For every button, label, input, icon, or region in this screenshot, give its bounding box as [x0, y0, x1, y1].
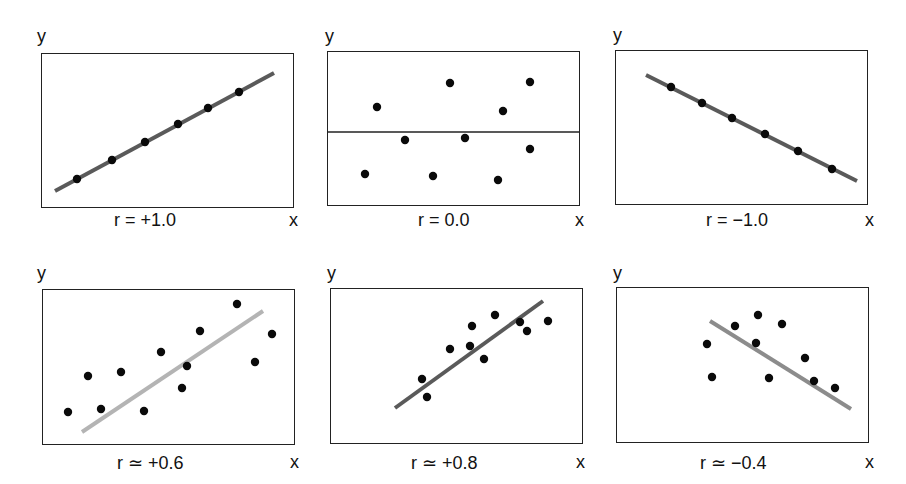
data-point — [499, 107, 507, 115]
data-point — [516, 318, 524, 326]
data-point — [251, 358, 259, 366]
data-point — [698, 99, 706, 107]
data-point — [526, 78, 534, 86]
data-point — [423, 393, 431, 401]
data-point — [233, 300, 241, 308]
data-point — [728, 114, 736, 122]
data-point — [731, 322, 739, 330]
data-point — [117, 368, 125, 376]
data-point — [526, 145, 534, 153]
fit-line — [646, 75, 857, 181]
data-point — [778, 320, 786, 328]
fit-line — [82, 311, 263, 432]
data-point — [73, 175, 81, 183]
data-point — [801, 354, 809, 362]
data-point — [828, 165, 836, 173]
data-point — [268, 330, 276, 338]
data-point — [468, 322, 476, 330]
data-point — [84, 372, 92, 380]
data-point — [141, 138, 149, 146]
data-point — [157, 348, 165, 356]
data-point — [429, 172, 437, 180]
fit-line — [710, 321, 851, 409]
data-point — [418, 375, 426, 383]
data-point — [754, 311, 762, 319]
data-point — [667, 83, 675, 91]
data-point — [204, 104, 212, 112]
data-point — [461, 134, 469, 142]
fit-line — [395, 301, 543, 408]
data-point — [108, 156, 116, 164]
data-point — [794, 147, 802, 155]
data-point — [810, 377, 818, 385]
data-point — [544, 317, 552, 325]
data-point — [361, 170, 369, 178]
data-point — [831, 384, 839, 392]
data-point — [703, 340, 711, 348]
data-point — [235, 88, 243, 96]
data-point — [140, 407, 148, 415]
data-point — [765, 374, 773, 382]
data-point — [174, 120, 182, 128]
data-point — [761, 130, 769, 138]
data-point — [178, 384, 186, 392]
data-point — [373, 103, 381, 111]
data-point — [446, 79, 454, 87]
data-point — [480, 355, 488, 363]
data-point — [466, 342, 474, 350]
data-point — [446, 345, 454, 353]
data-point — [752, 339, 760, 347]
data-point — [491, 311, 499, 319]
plot-marks — [0, 0, 906, 484]
data-point — [196, 327, 204, 335]
data-point — [523, 327, 531, 335]
data-point — [64, 408, 72, 416]
data-point — [494, 176, 502, 184]
data-point — [183, 362, 191, 370]
data-point — [708, 373, 716, 381]
data-point — [97, 405, 105, 413]
data-point — [401, 136, 409, 144]
